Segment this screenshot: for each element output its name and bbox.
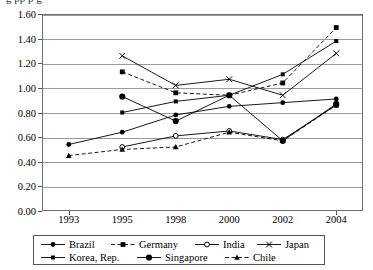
data-point (121, 242, 126, 247)
data-point (280, 100, 285, 105)
y-tick-label: 0.80 (0, 107, 36, 118)
data-point (120, 111, 124, 115)
legend-marker-filled-square-icon (110, 239, 136, 250)
y-tick-mark (38, 211, 42, 212)
data-point (51, 242, 56, 247)
series-line (69, 99, 337, 145)
legend-item-label: Japan (282, 239, 309, 250)
legend-item[interactable]: Brazil (40, 239, 110, 250)
data-point (120, 69, 125, 74)
data-point (333, 51, 339, 57)
x-tick-mark (69, 211, 70, 215)
data-point (66, 142, 71, 147)
data-point (226, 92, 232, 98)
x-tick-label: 1995 (112, 214, 133, 225)
y-tick-label: 1.00 (0, 82, 36, 93)
x-tick-label: 1998 (165, 214, 186, 225)
x-tick-label: 2004 (326, 214, 347, 225)
data-point (280, 81, 285, 86)
data-point (173, 113, 178, 118)
legend-item-label: Brazil (66, 239, 95, 250)
data-point (120, 130, 125, 135)
legend-marker-filled-circle-icon (40, 239, 66, 250)
legend-item-label: Korea, Rep. (66, 252, 119, 263)
y-tick-label: 1.40 (0, 33, 36, 44)
data-point (173, 90, 178, 95)
data-point (119, 93, 125, 99)
y-tick-label: 0.40 (0, 156, 36, 167)
series-line (69, 105, 337, 155)
legend-item[interactable]: Chile (224, 252, 276, 263)
chart-title-sliver: g pp p g (6, 0, 366, 4)
legend-item[interactable]: Korea, Rep. (40, 252, 136, 263)
data-point (205, 242, 210, 247)
series-layer (42, 14, 363, 211)
x-tick-label: 2002 (272, 214, 293, 225)
legend-marker-filled-triangle-icon (224, 252, 250, 263)
x-tick-mark (336, 211, 337, 215)
data-point (227, 104, 232, 109)
legend-item-label: Chile (250, 252, 276, 263)
legend-item-label: Germany (136, 239, 178, 250)
y-tick-label: 0.60 (0, 132, 36, 143)
legend-marker-open-circle-icon (194, 239, 220, 250)
data-point (280, 92, 286, 98)
chart-legend: BrazilGermanyIndiaJapan Korea, Rep.Singa… (33, 235, 325, 265)
data-point (119, 53, 125, 59)
data-point (334, 25, 339, 30)
legend-item[interactable]: Singapore (136, 252, 224, 263)
legend-item[interactable]: India (194, 239, 256, 250)
legend-item-label: Singapore (162, 252, 208, 263)
legend-row-2: Korea, Rep.SingaporeChile (40, 251, 320, 264)
legend-item[interactable]: Germany (110, 239, 194, 250)
y-tick-label: 1.20 (0, 58, 36, 69)
data-point (174, 99, 178, 103)
data-point (334, 97, 339, 102)
legend-row-1: BrazilGermanyIndiaJapan (40, 238, 320, 251)
data-point (146, 254, 152, 260)
data-point (173, 133, 178, 138)
legend-marker-filled-circle-large-icon (136, 252, 162, 263)
chart-screenshot: g pp p g 0.000.200.400.600.801.001.201.4… (0, 0, 373, 270)
legend-item-label: India (220, 239, 245, 250)
x-tick-label: 1993 (58, 214, 79, 225)
series-line (122, 53, 336, 95)
data-point (281, 72, 285, 76)
legend-marker-filled-square-small-icon (40, 252, 66, 263)
legend-marker-cross-icon (256, 239, 282, 250)
data-point (51, 256, 55, 260)
data-point (334, 39, 338, 43)
y-tick-label: 1.60 (0, 9, 36, 20)
y-tick-label: 0.00 (0, 206, 36, 217)
series-line (122, 41, 336, 112)
x-tick-label: 2000 (219, 214, 240, 225)
y-tick-label: 0.20 (0, 181, 36, 192)
legend-item[interactable]: Japan (256, 239, 309, 250)
data-point (173, 118, 179, 124)
